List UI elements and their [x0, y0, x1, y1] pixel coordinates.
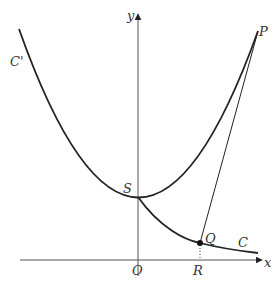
- point-q: [197, 240, 203, 246]
- point-r-label: R: [192, 263, 203, 278]
- x-axis-label: x: [264, 255, 272, 270]
- point-q-label: Q: [205, 231, 216, 246]
- curve-c-label: C: [238, 235, 248, 250]
- origin-label: O: [132, 263, 143, 278]
- diagram-canvas: y x O S P Q R C C': [0, 0, 276, 287]
- point-p-label: P: [258, 24, 268, 39]
- curve-c-prime-label: C': [10, 54, 24, 69]
- y-axis-label: y: [126, 8, 135, 23]
- point-s-label: S: [123, 181, 132, 196]
- segment-qp: [200, 31, 258, 243]
